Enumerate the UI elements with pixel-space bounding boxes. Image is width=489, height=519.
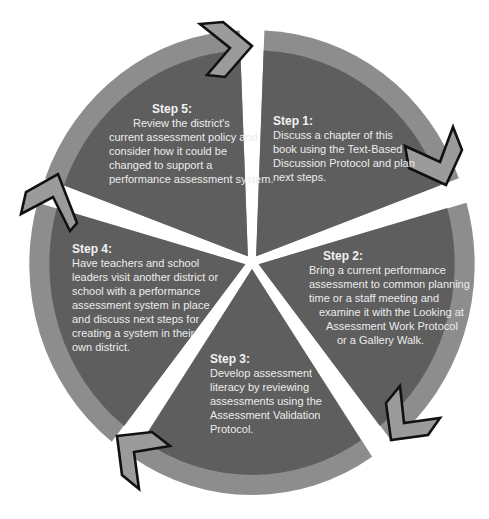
step-2-line: Bring a current performance — [309, 264, 446, 276]
cycle-diagram: Step 1: Discuss a chapter of this book u… — [0, 0, 489, 519]
step-5-line: performance assessment system. — [109, 173, 273, 185]
step-5-line: Review the district's — [133, 117, 230, 129]
step-2-line: or a Gallery Walk. — [337, 334, 424, 346]
step-5-line: consider how it could be — [109, 145, 227, 157]
step-3-line: assessments using the — [210, 395, 322, 407]
step-4-line: school with a performance — [72, 285, 200, 297]
step-3-line: Protocol. — [210, 423, 253, 435]
step-4-line: own district. — [72, 341, 130, 353]
step-4-title: Step 4: — [72, 242, 112, 256]
step-4-line: assessment system in place — [72, 299, 210, 311]
step-2-line: time or a staff meeting and — [309, 292, 439, 304]
step-5-line: current assessment policy and — [109, 131, 258, 143]
step-2-line: Assessment Work Protocol — [326, 320, 458, 332]
step-2-line: examine it with the Looking at — [319, 306, 464, 318]
step-1-line: Discuss a chapter of this — [273, 129, 393, 141]
step-1-line: Discussion Protocol and plan — [273, 157, 415, 169]
step-2-title: Step 2: — [323, 249, 363, 263]
step-4-line: creating a system in their — [72, 327, 195, 339]
step-3-line: Develop assessment — [210, 367, 312, 379]
step-3-line: literacy by reviewing — [210, 381, 309, 393]
step-2-line: assessment to common planning — [309, 278, 470, 290]
step-1-line: book using the Text-Based — [273, 143, 402, 155]
step-3-title: Step 3: — [210, 352, 250, 366]
step-1-title: Step 1: — [273, 114, 313, 128]
step-4-line: and discuss next steps for — [72, 313, 200, 325]
step-4-line: Have teachers and school — [72, 257, 199, 269]
step-4-line: leaders visit another district or — [72, 271, 218, 283]
step-5-title: Step 5: — [152, 102, 192, 116]
step-1-line: next steps. — [273, 171, 326, 183]
step-3-line: Assessment Validation — [210, 409, 320, 421]
step-5-line: changed to support a — [109, 159, 213, 171]
